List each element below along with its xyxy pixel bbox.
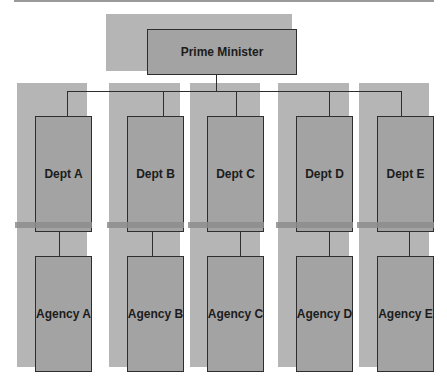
top-rule bbox=[14, 0, 434, 2]
agency-e-node: Agency E bbox=[377, 256, 434, 372]
dept-c-node: Dept C bbox=[207, 116, 264, 232]
prime-minister-label: Prime Minister bbox=[181, 45, 264, 59]
agency-d-connector bbox=[329, 232, 330, 256]
dept-c-label: Dept C bbox=[216, 167, 255, 181]
pm-connector bbox=[216, 75, 217, 91]
dept-e-node: Dept E bbox=[377, 116, 434, 232]
dept-a-node: Dept A bbox=[35, 116, 92, 232]
agency-d-node: Agency D bbox=[296, 256, 353, 372]
agency-a-node: Agency A bbox=[35, 256, 92, 372]
agency-c-node: Agency C bbox=[207, 256, 264, 372]
dept-bus-connector bbox=[67, 91, 402, 92]
band-d bbox=[276, 222, 353, 228]
band-e bbox=[357, 222, 434, 228]
dept-b-connector bbox=[163, 91, 164, 116]
dept-a-label: Dept A bbox=[44, 167, 82, 181]
agency-a-label: Agency A bbox=[36, 307, 91, 321]
band-c bbox=[188, 222, 264, 228]
agency-c-label: Agency C bbox=[208, 307, 263, 321]
dept-b-label: Dept B bbox=[136, 167, 175, 181]
agency-b-connector bbox=[152, 232, 153, 256]
dept-d-label: Dept D bbox=[305, 167, 344, 181]
agency-e-connector bbox=[409, 232, 410, 256]
prime-minister-node: Prime Minister bbox=[147, 29, 297, 75]
dept-d-node: Dept D bbox=[296, 116, 353, 232]
band-a bbox=[15, 222, 92, 228]
band-b bbox=[107, 222, 184, 228]
dept-e-connector bbox=[401, 91, 402, 116]
agency-b-node: Agency B bbox=[127, 256, 184, 372]
dept-e-label: Dept E bbox=[386, 167, 424, 181]
dept-d-connector bbox=[329, 91, 330, 116]
dept-b-node: Dept B bbox=[127, 116, 184, 232]
agency-e-label: Agency E bbox=[378, 307, 433, 321]
agency-c-connector bbox=[240, 232, 241, 256]
agency-a-connector bbox=[59, 232, 60, 256]
dept-a-connector bbox=[67, 91, 68, 116]
agency-b-label: Agency B bbox=[128, 307, 183, 321]
agency-d-label: Agency D bbox=[297, 307, 352, 321]
dept-c-connector bbox=[236, 91, 237, 116]
